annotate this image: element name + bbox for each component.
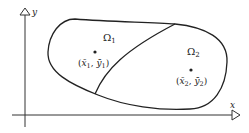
y-axis-arrow-icon: [20, 8, 30, 15]
y-axis-label: y: [31, 7, 38, 17]
centroid-1-label: (x̄1, ȳ1): [78, 58, 109, 70]
diagram-canvas: y x Ω1 (x̄1, ȳ1) Ω2 (x̄2, ȳ2): [0, 0, 249, 133]
centroid-2-label: (x̄2, ȳ2): [176, 76, 207, 88]
region-2-label: Ω2: [187, 46, 200, 59]
x-axis-label: x: [230, 100, 235, 110]
domain-boundary: [48, 19, 227, 109]
x-axis-arrow-icon: [232, 110, 240, 120]
centroid-2-point: [189, 68, 192, 71]
centroid-1-point: [93, 50, 96, 53]
region-1-label: Ω1: [103, 32, 116, 45]
